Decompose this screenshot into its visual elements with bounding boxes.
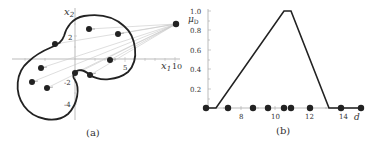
panel-b: 1.0 μD 0.8 0.6 0.4 0.2 8 10 12 14 d (b)	[188, 8, 364, 136]
tick-label-ym4: -4	[64, 101, 71, 109]
tick-label-d-8: 8	[239, 113, 243, 121]
tick-label-y2: 2	[68, 34, 72, 42]
panel-a: x2 2 -2 -4 5 x1 10 (a)	[12, 6, 182, 138]
data-point	[338, 105, 344, 111]
data-point	[281, 105, 287, 111]
points-b	[203, 105, 364, 111]
data-point	[52, 41, 58, 47]
data-point	[225, 105, 231, 111]
tick-label-d-14: 14	[339, 113, 348, 121]
data-point	[288, 105, 294, 111]
data-point	[203, 105, 209, 111]
caption-b: (b)	[276, 125, 290, 136]
membership-line	[206, 11, 361, 108]
mu-ticks	[208, 11, 211, 99]
x1-label: x1	[161, 60, 171, 73]
tick-label-d-12: 12	[305, 113, 314, 121]
tick-label-x10: 10	[172, 62, 182, 71]
reference-point	[173, 21, 179, 27]
data-point	[115, 31, 121, 37]
tick-label-ym2: -2	[64, 79, 71, 87]
tick-label-mu-0.2: 0.2	[190, 86, 201, 94]
data-point	[44, 85, 50, 91]
points-a	[29, 21, 179, 91]
figure: x2 2 -2 -4 5 x1 10 (a)	[0, 0, 374, 146]
data-point	[358, 105, 364, 111]
data-point	[307, 105, 313, 111]
data-point	[72, 70, 78, 76]
data-point	[38, 65, 44, 71]
data-point	[29, 79, 35, 85]
x2-label: x2	[64, 6, 75, 19]
tick-label-mu-0.6: 0.6	[190, 47, 202, 55]
data-point	[86, 26, 92, 32]
tick-label-mu-0.8: 0.8	[190, 27, 201, 35]
x-ticks	[25, 57, 175, 62]
tick-label-d-10: 10	[271, 113, 280, 121]
data-point	[87, 72, 93, 78]
data-point	[265, 105, 271, 111]
caption-a: (a)	[86, 127, 100, 138]
d-label: d	[354, 112, 360, 122]
tick-label-mu-0.4: 0.4	[190, 66, 202, 74]
data-point	[250, 105, 256, 111]
data-point	[107, 57, 113, 63]
tick-label-x5: 5	[123, 64, 127, 72]
